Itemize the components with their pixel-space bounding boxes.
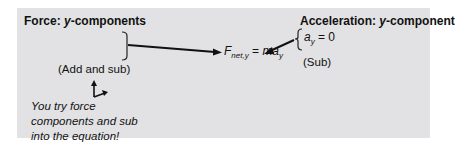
right-brace-icon [295, 29, 302, 50]
acceleration-arrow-icon [270, 40, 294, 51]
left-brace-icon [122, 32, 127, 60]
xy-axes-icon [91, 80, 108, 97]
force-arrow-icon [128, 45, 215, 52]
